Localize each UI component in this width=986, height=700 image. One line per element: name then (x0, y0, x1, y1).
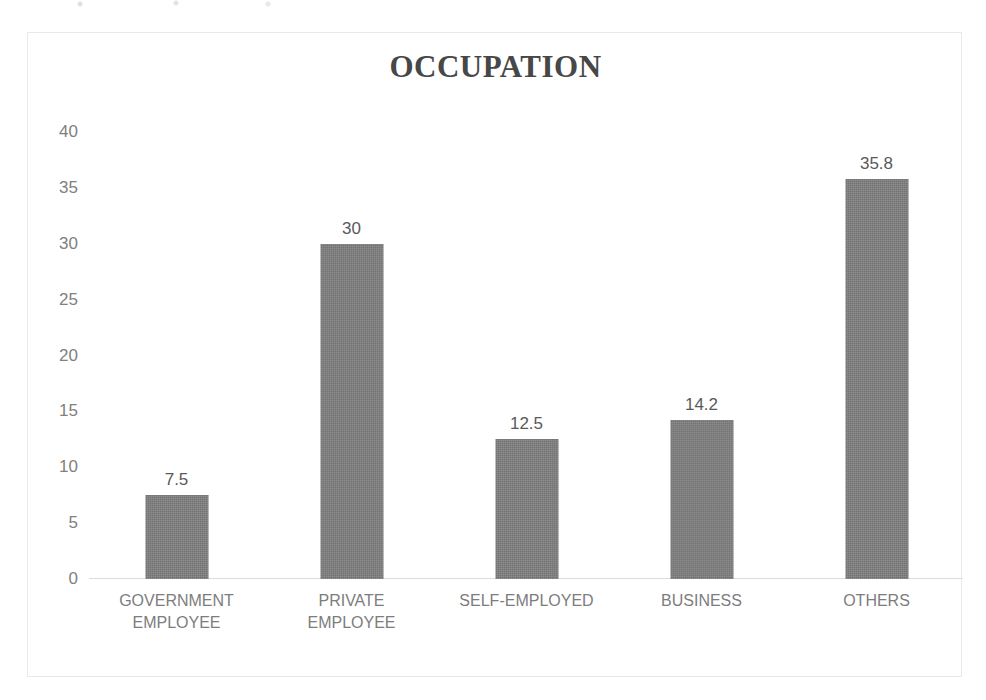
bar-slot-private-employee: 30 PRIVATE EMPLOYEE (264, 132, 439, 579)
bar-value-business: 14.2 (685, 395, 718, 415)
y-axis-tick-5: 5 (69, 513, 78, 533)
y-axis-tick-30: 30 (59, 234, 78, 254)
bar-value-others: 35.8 (860, 154, 893, 174)
scan-noise-artifact (0, 0, 986, 14)
y-axis-tick-35: 35 (59, 178, 78, 198)
x-axis-label-business: BUSINESS (607, 590, 797, 612)
x-axis-label-private-employee: PRIVATE EMPLOYEE (257, 590, 447, 634)
x-axis-label-government-employee: GOVERNMENT EMPLOYEE (82, 590, 272, 634)
bar-government-employee[interactable] (145, 495, 208, 579)
chart-frame: OCCUPATION 40 35 30 25 20 15 10 5 0 7.5 … (27, 32, 962, 677)
x-axis-label-others: OTHERS (782, 590, 972, 612)
bar-value-private-employee: 30 (342, 219, 361, 239)
bar-slot-business: 14.2 BUSINESS (614, 132, 789, 579)
y-axis-tick-10: 10 (59, 457, 78, 477)
y-axis-tick-40: 40 (59, 122, 78, 142)
y-axis-tick-20: 20 (59, 346, 78, 366)
plot-area: 40 35 30 25 20 15 10 5 0 7.5 GOVERNMENT … (89, 132, 963, 579)
y-axis-tick-0: 0 (69, 569, 78, 589)
bar-slot-others: 35.8 OTHERS (789, 132, 964, 579)
bar-others[interactable] (845, 179, 908, 579)
chart-title: OCCUPATION (28, 49, 963, 85)
bar-slot-self-employed: 12.5 SELF-EMPLOYED (439, 132, 614, 579)
bar-value-government-employee: 7.5 (165, 470, 189, 490)
x-axis-label-self-employed: SELF-EMPLOYED (432, 590, 622, 612)
bar-slot-government-employee: 7.5 GOVERNMENT EMPLOYEE (89, 132, 264, 579)
bar-self-employed[interactable] (495, 439, 558, 579)
bar-value-self-employed: 12.5 (510, 414, 543, 434)
y-axis-tick-15: 15 (59, 401, 78, 421)
bar-private-employee[interactable] (320, 244, 383, 579)
y-axis-tick-25: 25 (59, 290, 78, 310)
bar-business[interactable] (670, 420, 733, 579)
